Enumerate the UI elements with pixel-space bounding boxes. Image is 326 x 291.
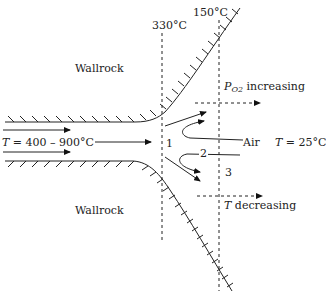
air-label: Air (243, 137, 260, 148)
zone-2-label: 2 (199, 148, 208, 159)
t-decreasing-label: T decreasing (224, 200, 296, 211)
inflow-temperature-label: T = 400 – 900°C (2, 137, 94, 148)
flow-arrow-up (165, 112, 206, 126)
air-arrow-up (182, 121, 243, 140)
isotherm-330-label: 330°C (152, 20, 187, 31)
isotherm-150-label: 150°C (193, 7, 228, 18)
ambient-temperature-label: T = 25°C (275, 137, 326, 148)
po2-increasing-label: PO2 increasing (224, 81, 305, 94)
wallrock-top-label: Wallrock (75, 63, 124, 74)
zone-3-label: 3 (225, 167, 232, 178)
flow-arrow-down (165, 157, 200, 181)
wallrock-bottom-label: Wallrock (75, 205, 124, 216)
zone-1-label: 1 (166, 138, 173, 149)
lower-wall (5, 161, 232, 291)
